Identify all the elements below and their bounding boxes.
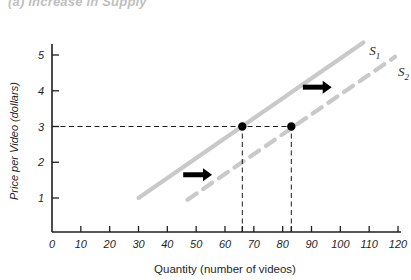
- x-tick-label: 80: [277, 238, 290, 250]
- shift-arrow-lower-head: [203, 168, 212, 181]
- x-tick-label: 120: [389, 238, 408, 250]
- x-tick-label: 100: [331, 238, 350, 250]
- x-tick-label: 30: [132, 238, 145, 250]
- y-tick-label: 1: [38, 192, 44, 204]
- supply-shift-chart: 010203040506070809010011012012345S1S2 Pr…: [0, 0, 411, 280]
- x-tick-label: 40: [161, 238, 174, 250]
- y-tick-label: 3: [38, 121, 45, 133]
- data-point-equilibrium-1: [238, 122, 246, 130]
- y-tick-label: 2: [37, 156, 44, 168]
- x-axis-title: Quantity (number of videos): [154, 263, 296, 275]
- x-tick-label: 20: [103, 238, 117, 250]
- figure-root: (a) Increase in Supply 01020304050607080…: [0, 0, 411, 280]
- y-axis-title: Price per Video (dollars): [8, 82, 20, 200]
- shift-arrow-upper-head: [323, 81, 332, 94]
- x-tick-label: 70: [248, 238, 261, 250]
- y-tick-label: 5: [38, 49, 45, 61]
- supply-curve-S1: [139, 42, 364, 198]
- data-point-equilibrium-2: [287, 122, 295, 130]
- x-tick-label: 110: [360, 238, 378, 250]
- curve-label-S2: S2: [398, 64, 410, 82]
- x-tick-label: 10: [75, 238, 88, 250]
- y-tick-label: 4: [38, 85, 44, 97]
- curve-label-S1: S1: [369, 43, 380, 61]
- x-tick-label: 50: [190, 238, 203, 250]
- x-tick-label: 0: [49, 238, 56, 250]
- x-tick-label: 90: [305, 238, 318, 250]
- x-tick-label: 60: [219, 238, 232, 250]
- chart-generated-layer: 010203040506070809010011012012345S1S2: [37, 42, 410, 250]
